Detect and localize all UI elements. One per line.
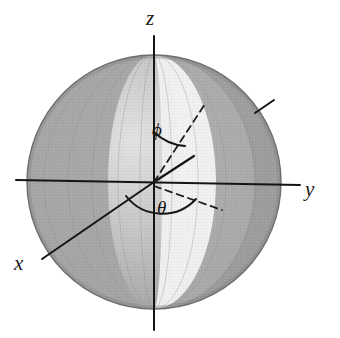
spherical-coordinates-figure: z y x ϕ θ: [0, 0, 340, 338]
y-axis-label: y: [305, 179, 314, 200]
x-axis-label: x: [14, 253, 23, 274]
equator-tick-line: [255, 100, 274, 113]
theta-angle-label: θ: [157, 198, 166, 217]
phi-angle-label: ϕ: [152, 120, 162, 139]
sphere-diagram-svg: [0, 0, 340, 338]
z-axis-label: z: [146, 8, 154, 29]
